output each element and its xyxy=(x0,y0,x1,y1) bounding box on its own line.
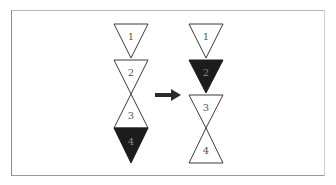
after-triangle-1: 1 xyxy=(189,24,223,58)
after-triangle-1-label: 1 xyxy=(203,31,209,42)
after-triangle-4: 4 xyxy=(189,128,223,163)
before-triangle-2-label: 2 xyxy=(128,67,134,78)
before-triangle-3: 3 xyxy=(114,94,148,128)
before-stack: 1 2 3 4 xyxy=(114,24,148,163)
after-triangle-2: 2 xyxy=(189,60,223,93)
before-triangle-4-label: 4 xyxy=(128,136,134,147)
diagram-canvas: 1 2 3 4 1 2 3 xyxy=(0,0,336,185)
before-triangle-4: 4 xyxy=(114,128,148,163)
before-triangle-1: 1 xyxy=(114,24,148,58)
after-triangle-4-label: 4 xyxy=(203,145,209,156)
arrow-right-icon xyxy=(155,89,181,101)
after-triangle-3: 3 xyxy=(189,95,223,128)
before-triangle-3-label: 3 xyxy=(128,110,134,121)
before-triangle-2: 2 xyxy=(114,60,148,94)
after-triangle-3-label: 3 xyxy=(203,102,209,113)
after-stack: 1 2 3 4 xyxy=(189,24,223,163)
after-triangle-2-label: 2 xyxy=(203,67,209,78)
before-triangle-1-label: 1 xyxy=(128,31,134,42)
